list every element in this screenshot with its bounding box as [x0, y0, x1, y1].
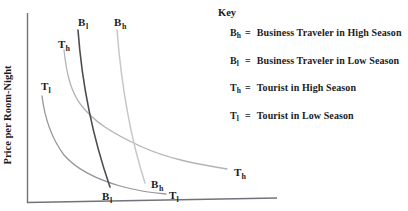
- curve-label-bl-bottom: B: [102, 190, 110, 202]
- curve-label-th-right-sub: h: [242, 172, 247, 181]
- tourist-low-season-curve: [42, 96, 166, 194]
- key-row-th: Th = Tourist in High Season: [218, 82, 402, 98]
- key-equals: =: [245, 55, 251, 68]
- key-symbol-sub: l: [237, 59, 239, 68]
- key-equals: =: [245, 110, 251, 123]
- key-panel: Key Bh = Business Traveler in High Seaso…: [218, 7, 402, 137]
- key-equals: =: [245, 27, 251, 40]
- curve-label-th-top-sub: h: [66, 44, 71, 53]
- curve-label-bh-bottom-sub: h: [159, 184, 164, 193]
- key-description-tl: Tourist in Low Season: [257, 110, 354, 123]
- key-symbol-bh: Bh: [230, 27, 245, 43]
- key-row-tl: Tl = Tourist in Low Season: [218, 110, 402, 126]
- key-row-bl: Bl = Business Traveler in Low Season: [218, 55, 402, 71]
- curve-label-bh-bottom: B: [151, 178, 159, 190]
- key-description-bh: Business Traveler in High Season: [257, 27, 402, 40]
- key-symbol-th: Th: [230, 82, 245, 98]
- key-symbol-sub: l: [237, 114, 239, 123]
- curve-label-tl-top-sub: l: [49, 86, 52, 95]
- curve-label-bl-top: B: [78, 16, 86, 28]
- demand-curves: [42, 30, 227, 194]
- curve-label-bl-top-sub: l: [86, 22, 89, 31]
- key-row-bh: Bh = Business Traveler in High Season: [218, 27, 402, 43]
- key-description-th: Tourist in High Season: [257, 82, 356, 95]
- curve-label-tl-bottom-sub: l: [177, 195, 180, 204]
- key-symbol-sub: h: [237, 86, 241, 95]
- business-low-season-curve: [78, 30, 110, 187]
- key-title: Key: [218, 7, 402, 19]
- key-equals: =: [245, 82, 251, 95]
- key-symbol-base: T: [230, 110, 237, 121]
- key-symbol-base: B: [230, 55, 237, 66]
- key-description-bl: Business Traveler in Low Season: [257, 55, 400, 68]
- key-symbol-base: B: [230, 27, 237, 38]
- figure: Price per Room-Night B l B h T h T l B l…: [0, 0, 408, 211]
- key-symbol-tl: Tl: [230, 110, 245, 126]
- x-axis: [27, 198, 277, 203]
- key-symbol-bl: Bl: [230, 55, 245, 71]
- business-high-season-curve: [117, 30, 145, 183]
- curve-label-bh-top: B: [114, 16, 122, 28]
- curve-label-bh-top-sub: h: [122, 22, 127, 31]
- y-axis-label: Price per Room-Night: [2, 65, 13, 164]
- curve-label-bl-bottom-sub: l: [110, 196, 113, 205]
- key-symbol-base: T: [230, 82, 237, 93]
- key-symbol-sub: h: [237, 31, 241, 40]
